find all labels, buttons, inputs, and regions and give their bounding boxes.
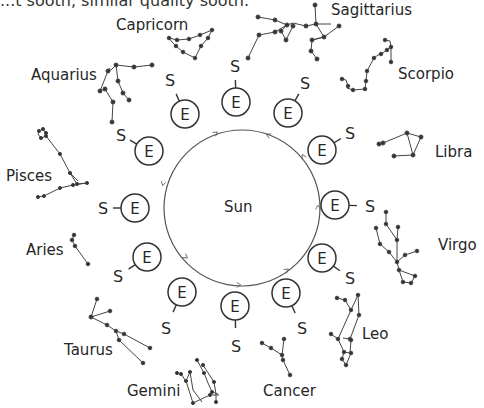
pisces-stars — [36, 127, 88, 198]
earth-sun-connector — [176, 94, 179, 101]
constellation-label-pisces: Pisces — [6, 169, 52, 184]
sun-direction-label: S — [165, 71, 175, 90]
earth-label: E — [130, 200, 139, 218]
earth-sun-connector — [173, 305, 176, 312]
sagittarius-stars — [246, 3, 341, 61]
scorpio-stars — [340, 38, 393, 92]
earth-sun-node: ES — [116, 126, 163, 165]
constellation-label-leo: Leo — [362, 327, 389, 342]
earth-sun-node: ES — [272, 279, 307, 338]
leo-stars — [329, 293, 361, 367]
aries-stars — [70, 233, 90, 266]
earth-sun-connector — [334, 139, 341, 143]
earth-label: E — [230, 298, 239, 316]
sun-direction-label: S — [345, 124, 355, 143]
orbit-arrow-icon — [163, 180, 164, 184]
earth-label: E — [281, 285, 290, 303]
earth-sun-connector — [129, 265, 136, 269]
earth-sun-node: ES — [221, 292, 249, 356]
libra-stars — [377, 131, 423, 158]
cancer-stars — [260, 337, 292, 377]
orbit-arrow-icon — [182, 254, 186, 257]
constellation-label-virgo: Virgo — [438, 238, 477, 253]
constellation-label-aries: Aries — [26, 243, 64, 258]
earth-label: E — [283, 105, 292, 123]
sun-direction-label: S — [231, 337, 241, 356]
sun-direction-label: S — [161, 319, 171, 338]
earth-label: E — [180, 106, 189, 124]
constellation-label-capricorn: Capricorn — [116, 18, 188, 33]
earth-sun-connector — [130, 140, 137, 144]
earth-label: E — [317, 142, 326, 160]
constellation-label-sagittarius: Sagittarius — [331, 3, 412, 18]
earth-sun-node: ES — [222, 57, 250, 116]
earth-sun-node: ES — [274, 74, 310, 127]
earth-sun-connector — [295, 94, 299, 101]
earth-sun-node: ES — [165, 71, 199, 128]
sun-direction-label: S — [365, 197, 375, 216]
sun-direction-label: S — [345, 269, 355, 288]
sun-direction-label: S — [98, 199, 108, 218]
constellation-label-gemini: Gemini — [127, 384, 180, 399]
earth-sun-node: ES — [161, 278, 196, 338]
constellation-label-cancer: Cancer — [263, 384, 316, 399]
gemini-stars — [175, 358, 219, 404]
zodiac-diagram: ...t sooth, similar quality sooth. ESESE… — [0, 0, 484, 408]
earth-label: E — [317, 250, 326, 268]
earth-sun-node: ES — [113, 243, 161, 286]
earth-label: E — [330, 197, 339, 215]
earth-sun-connector — [292, 306, 295, 313]
constellation-label-aquarius: Aquarius — [31, 68, 97, 83]
virgo-stars — [374, 210, 419, 285]
earth-sun-connector — [333, 266, 340, 271]
earth-sun-node: ES — [308, 244, 355, 288]
constellation-label-taurus: Taurus — [64, 343, 113, 358]
aquarius-stars — [98, 63, 154, 124]
sun-direction-label: S — [297, 319, 307, 338]
sun-direction-label: S — [116, 126, 126, 145]
earth-sun-node: ES — [321, 191, 375, 219]
sun-direction-label: S — [300, 74, 310, 93]
constellation-label-libra: Libra — [435, 145, 472, 160]
sun-label: Sun — [224, 200, 253, 215]
earth-sun-node: ES — [98, 194, 149, 222]
earth-label: E — [177, 284, 186, 302]
sun-direction-label: S — [230, 57, 240, 76]
earth-sun-node: ES — [308, 124, 355, 164]
constellation-label-scorpio: Scorpio — [398, 67, 454, 82]
earth-label: E — [144, 143, 153, 161]
earth-label: E — [142, 249, 151, 267]
earth-label: E — [231, 94, 240, 112]
sun-direction-label: S — [113, 267, 123, 286]
